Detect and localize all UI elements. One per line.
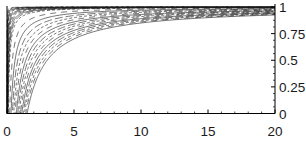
family-curve bbox=[24, 14, 275, 114]
curve-family-chart: 0510152000.250.50.751 bbox=[0, 0, 306, 149]
y-tick-label: 0.75 bbox=[279, 27, 305, 42]
y-tick-label: 0.5 bbox=[279, 53, 298, 68]
y-tick-label: 1 bbox=[279, 0, 287, 15]
axes bbox=[7, 4, 275, 114]
curve-bundle bbox=[7, 7, 275, 113]
family-curve bbox=[8, 8, 275, 114]
family-curve bbox=[11, 9, 275, 114]
x-tick-label: 20 bbox=[267, 124, 282, 139]
family-curve bbox=[16, 11, 275, 114]
family-curve bbox=[15, 10, 275, 113]
x-tick-label: 5 bbox=[70, 124, 78, 139]
y-tick-label: 0 bbox=[279, 107, 287, 122]
x-tick-label: 10 bbox=[133, 124, 148, 139]
family-curve bbox=[10, 8, 275, 113]
x-tick-label: 0 bbox=[3, 124, 11, 139]
family-curve bbox=[18, 11, 275, 113]
family-curve bbox=[20, 12, 275, 113]
y-tick-label: 0.25 bbox=[279, 80, 305, 95]
family-curve bbox=[26, 14, 275, 113]
x-tick-label: 15 bbox=[200, 124, 215, 139]
family-curve bbox=[22, 13, 275, 114]
family-curve bbox=[12, 9, 275, 113]
plot-figure: 0510152000.250.50.751 bbox=[0, 0, 306, 149]
family-curve bbox=[8, 7, 275, 113]
y-ticks: 00.250.50.751 bbox=[271, 0, 305, 122]
family-curve bbox=[14, 10, 275, 114]
